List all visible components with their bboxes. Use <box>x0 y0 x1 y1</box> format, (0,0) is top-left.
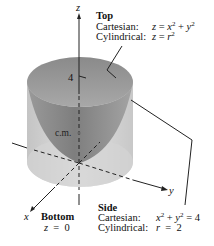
x-axis-label: x <box>24 211 29 222</box>
top-title: Top <box>96 10 113 21</box>
side-cylindrical-label: Cylindrical: <box>98 222 148 233</box>
center-of-mass-label: c.m. <box>55 128 71 139</box>
top-cylindrical-equation: z = r2 <box>152 31 175 42</box>
bottom-title: Bottom <box>41 211 74 222</box>
top-cylindrical-label: Cylindrical: <box>96 31 146 42</box>
z-axis-label: z <box>76 2 80 13</box>
y-axis-label: y <box>169 185 174 196</box>
bottom-equation: z = 0 <box>44 222 70 233</box>
tick-4-label: 4 <box>68 72 73 83</box>
center-of-mass-point <box>77 131 80 134</box>
side-cylindrical-equation: r = 2 <box>156 222 182 233</box>
